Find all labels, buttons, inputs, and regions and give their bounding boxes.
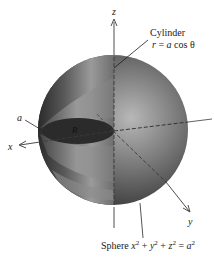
sphere-equation-label: Sphere x2 + y2 + z2 = a2 — [101, 239, 196, 251]
sphere — [38, 54, 188, 206]
sphere-leader-line — [140, 203, 143, 238]
cylinder-label: Cylinder — [150, 27, 186, 38]
z-axis-label: z — [111, 6, 116, 17]
radius-a-label: a — [17, 112, 22, 123]
sphere-cylinder-diagram: z x y a R Cylinder r = a cos θ Sphere x2… — [0, 0, 214, 260]
y-axis-label: y — [187, 216, 193, 227]
guide-line-extension — [188, 119, 212, 122]
x-axis-label: x — [7, 141, 13, 152]
region-r-label: R — [71, 125, 78, 135]
cylinder-equation: r = a cos θ — [152, 39, 195, 50]
